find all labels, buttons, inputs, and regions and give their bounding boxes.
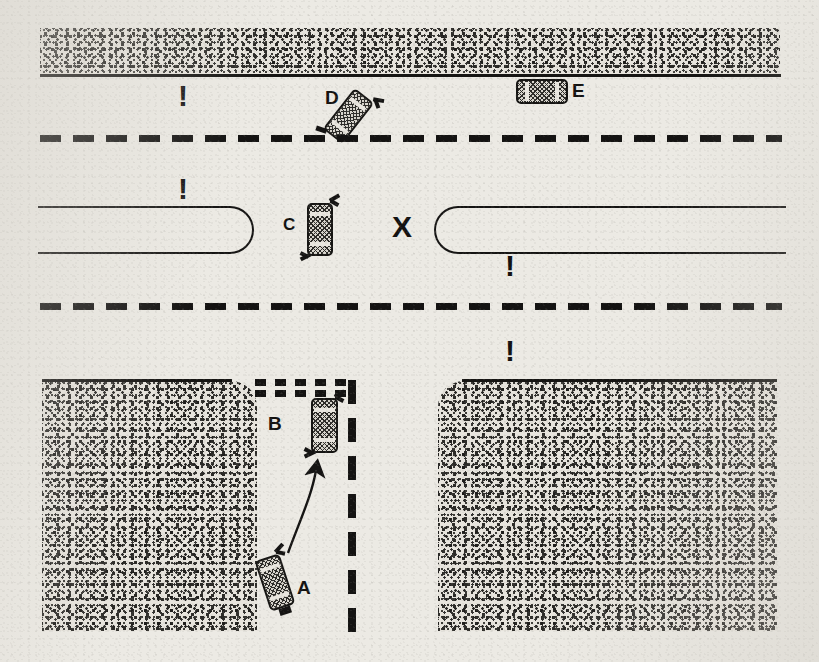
median-island-left [38, 206, 254, 254]
car-E-rear-window [555, 82, 559, 101]
car-A-body [254, 553, 295, 611]
exclamation-icon-median-right: ! [505, 251, 515, 281]
bottom-left-block-top-edge [42, 379, 232, 382]
car-label-D: D [325, 88, 339, 107]
car-E-windshield [525, 82, 529, 101]
crosswalk-row-top [255, 379, 351, 386]
top-curb-band [40, 28, 780, 75]
car-E [516, 79, 568, 104]
car-label-B: B [268, 414, 282, 433]
bottom-left-curb-block [42, 381, 257, 631]
exclamation-icon-lower-right: ! [505, 336, 515, 366]
car-label-E: E [572, 81, 585, 100]
car-E-body [516, 79, 568, 104]
car-C-rear-window [310, 242, 330, 246]
top-curb-edge-line [40, 74, 781, 77]
bottom-right-curb-block [438, 381, 777, 631]
lane-dash-line-upper [40, 135, 782, 142]
car-B-body [311, 398, 338, 453]
car-C-body [307, 203, 333, 256]
car-B-rear-window [314, 438, 335, 442]
lane-dash-line-vertical [348, 380, 356, 632]
car-label-C: C [283, 216, 296, 233]
diagram-canvas: ! ! ! ! D E C X [0, 0, 819, 662]
exclamation-icon-upper-left: ! [178, 81, 188, 111]
bottom-right-block-top-edge [462, 379, 777, 382]
lane-dash-line-lower [40, 303, 782, 310]
exclamation-icon-median-left: ! [178, 174, 188, 204]
x-mark-icon: X [392, 212, 412, 242]
car-A [254, 553, 295, 611]
car-B-windshield [314, 408, 335, 412]
car-C-windshield [310, 212, 330, 216]
car-C [307, 203, 333, 256]
car-B [311, 398, 338, 453]
median-island-right [434, 206, 786, 254]
car-label-A: A [297, 578, 311, 597]
